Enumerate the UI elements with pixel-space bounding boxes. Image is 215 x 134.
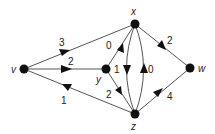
arrow-y-x-icon (117, 43, 124, 53)
arrow-z-x-icon (140, 63, 148, 73)
edge-label-v-x: 3 (59, 37, 65, 48)
edge-label-x-z: 1 (114, 64, 120, 75)
graph-diagram: 3 2 1 0 2 1 0 2 4 v x y z w (0, 0, 215, 134)
edge-label-z-w: 4 (167, 91, 173, 102)
node-label-v: v (11, 64, 17, 75)
arrow-z-w-icon (153, 88, 163, 97)
node-label-z: z (130, 121, 136, 132)
node-w (186, 64, 195, 73)
edge-v-x (24, 24, 135, 69)
arrow-v-x-icon (59, 49, 70, 56)
node-label-x: x (130, 6, 137, 17)
node-label-w: w (198, 63, 206, 74)
node-label-y: y (95, 74, 102, 85)
edge-label-y-x: 0 (106, 40, 112, 51)
edge-label-v-y: 2 (68, 56, 74, 67)
node-v (20, 65, 29, 74)
node-z (131, 110, 140, 119)
edge-labels: 3 2 1 0 2 1 0 2 4 (59, 35, 173, 106)
edge-label-z-v: 1 (61, 95, 67, 106)
node-y (102, 65, 111, 74)
arrow-y-z-icon (115, 86, 122, 95)
node-x (131, 20, 140, 29)
edge-label-x-w: 2 (167, 35, 173, 46)
arrow-x-z-icon (123, 65, 131, 75)
edge-label-z-x: 0 (148, 64, 154, 75)
edge-label-y-z: 2 (106, 89, 112, 100)
arrow-x-w-icon (157, 40, 166, 50)
